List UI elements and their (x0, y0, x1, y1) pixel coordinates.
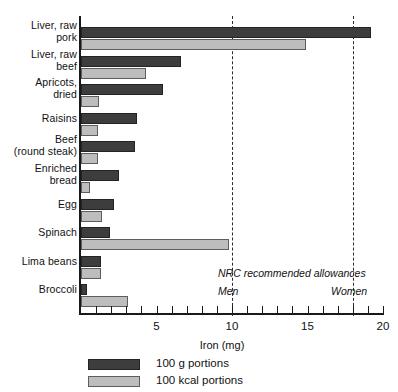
x-axis-title: Iron (mg) (0, 339, 398, 351)
x-axis-tick (232, 306, 233, 314)
bar-100g-portions (81, 141, 135, 152)
x-axis-tick (96, 306, 97, 314)
category-label: Liver, rawpork (0, 19, 77, 43)
x-axis-tick-label: 10 (226, 320, 239, 332)
x-axis-tick (383, 306, 384, 314)
x-axis-tick (157, 306, 158, 314)
bar-100kcal-portions (81, 125, 98, 136)
x-axis-title-text: Iron (mg) (200, 339, 245, 351)
x-axis-tick (262, 306, 263, 314)
x-axis-tick (111, 306, 112, 314)
category-label-line1: Beef (0, 133, 77, 145)
bar-100g-portions (81, 170, 119, 181)
x-axis-tick (141, 306, 142, 314)
category-label: Broccoli (0, 283, 77, 295)
category-label-line1: Enriched (0, 162, 77, 174)
category-label-line1: Liver, raw (0, 48, 77, 60)
x-axis-tick (187, 306, 188, 314)
legend-label: 100 kcal portions (156, 374, 243, 386)
category-label: Raisins (0, 112, 77, 124)
x-axis-tick (277, 306, 278, 314)
x-axis-tick (338, 306, 339, 314)
legend-label: 100 g portions (156, 357, 229, 369)
x-axis-tick-label: 20 (377, 320, 390, 332)
category-label: Beef(round steak) (0, 133, 77, 157)
bar-100kcal-portions (81, 153, 98, 164)
nrc-men-label: Men (218, 285, 238, 297)
category-label-line2: beef (0, 60, 77, 72)
x-axis-tick (353, 306, 354, 314)
bar-100kcal-portions (81, 39, 306, 50)
x-axis-tick (292, 306, 293, 314)
bar-100g-portions (81, 27, 371, 38)
nrc-allowances-title: NRC recommended allowances (218, 267, 366, 279)
bar-100g-portions (81, 113, 137, 124)
bar-100kcal-portions (81, 211, 102, 222)
x-axis-tick (323, 306, 324, 314)
legend-swatch-kcal100 (88, 376, 140, 387)
category-label-line1: Lima beans (0, 255, 77, 267)
x-axis-tick (126, 306, 127, 314)
bar-100g-portions (81, 84, 163, 95)
category-label-line2: dried (0, 88, 77, 100)
category-label-line1: Broccoli (0, 283, 77, 295)
x-axis-tick (172, 306, 173, 314)
category-label-line1: Raisins (0, 112, 77, 124)
bar-100g-portions (81, 284, 87, 295)
bar-100g-portions (81, 227, 110, 238)
bar-100g-portions (81, 256, 101, 267)
bar-100g-portions (81, 56, 181, 67)
category-label-line1: Spinach (0, 226, 77, 238)
category-label-line2: pork (0, 31, 77, 43)
x-axis-tick-label: 15 (301, 320, 314, 332)
bar-100kcal-portions (81, 96, 99, 107)
bar-100kcal-portions (81, 296, 128, 307)
bar-100kcal-portions (81, 239, 229, 250)
category-label-line2: (round steak) (0, 145, 77, 157)
bar-100g-portions (81, 199, 114, 210)
category-label: Enrichedbread (0, 162, 77, 186)
category-label: Spinach (0, 226, 77, 238)
x-axis-tick (368, 306, 369, 314)
x-axis-tick (202, 306, 203, 314)
legend-swatch-g100 (88, 359, 140, 370)
category-label-line1: Egg (0, 198, 77, 210)
bar-100kcal-portions (81, 268, 101, 279)
iron-content-bar-chart: Liver, rawporkLiver, rawbeefApricots,dri… (0, 0, 398, 392)
nrc-women-label: Women (331, 285, 367, 297)
bar-100kcal-portions (81, 182, 90, 193)
category-label: Liver, rawbeef (0, 48, 77, 72)
category-label: Egg (0, 198, 77, 210)
category-label: Apricots,dried (0, 76, 77, 100)
x-axis-tick-label: 5 (153, 320, 159, 332)
x-axis-tick (217, 306, 218, 314)
bar-100kcal-portions (81, 68, 146, 79)
x-axis-tick (247, 306, 248, 314)
category-label: Lima beans (0, 255, 77, 267)
category-label-line1: Apricots, (0, 76, 77, 88)
x-axis-tick (308, 306, 309, 314)
category-label-line1: Liver, raw (0, 19, 77, 31)
category-label-line2: bread (0, 174, 77, 186)
